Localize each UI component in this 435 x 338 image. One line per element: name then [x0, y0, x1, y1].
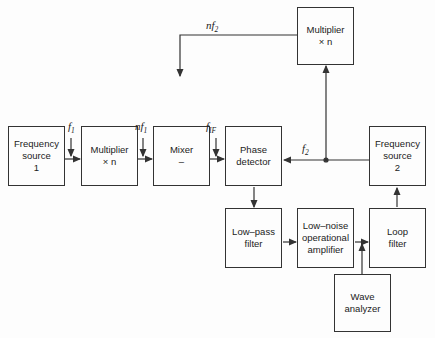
block-label: Mixer [170, 144, 193, 156]
block-label: filter [389, 238, 407, 250]
signal-label-f2: f2 [302, 142, 309, 157]
block-label: analyzer [345, 303, 381, 315]
block-label: Frequency [14, 138, 59, 150]
block-label: × n [103, 156, 116, 168]
block-label: Low–pass [232, 226, 275, 238]
signal-label-fif: fIF [206, 120, 216, 135]
block-label: operational [302, 232, 349, 244]
block-label: source [383, 150, 412, 162]
multiplier-1-block: Multiplier × n [81, 126, 138, 186]
wave-analyzer-block: Wave analyzer [334, 274, 391, 332]
block-label: × n [319, 36, 332, 48]
signal-label-f1: f1 [68, 120, 75, 135]
block-label: filter [245, 238, 263, 250]
block-label: Multiplier [90, 144, 128, 156]
block-label: 2 [395, 162, 400, 174]
block-label: amplifier [308, 244, 344, 256]
mixer-block: Mixer – [153, 126, 210, 186]
low-noise-amplifier-block: Low–noise operational amplifier [297, 208, 354, 268]
block-label: – [179, 156, 184, 168]
block-label: Loop [387, 226, 408, 238]
signal-label-nf2: nf2 [206, 19, 218, 34]
block-label: Wave [351, 291, 375, 303]
phase-detector-block: Phase detector [225, 126, 282, 186]
block-label: detector [236, 156, 270, 168]
block-label: source [22, 150, 51, 162]
loop-filter-block: Loop filter [369, 208, 426, 268]
block-label: Phase [240, 144, 267, 156]
frequency-source-1-block: Frequency source 1 [8, 126, 65, 186]
low-pass-filter-block: Low–pass filter [225, 208, 282, 268]
block-label: 1 [34, 162, 39, 174]
signal-label-nf1: nf1 [135, 120, 147, 135]
block-label: Frequency [375, 138, 420, 150]
frequency-source-2-block: Frequency source 2 [369, 126, 426, 186]
multiplier-2-block: Multiplier × n [297, 7, 354, 65]
block-label: Low–noise [303, 220, 348, 232]
block-label: Multiplier [306, 24, 344, 36]
